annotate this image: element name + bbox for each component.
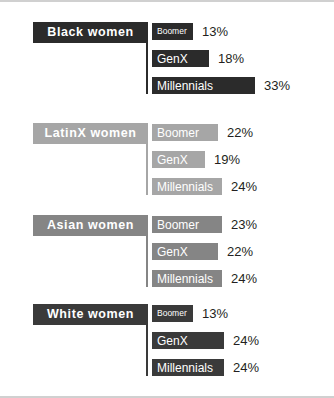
bar-row: Millennials 24% [152,359,259,376]
generation-share-chart: Black women Boomer 13% GenX 18% Millenni… [0,0,334,398]
group-label: White women [47,308,134,321]
group-label-box: Black women [33,22,148,43]
bar-generation-label: Boomer [157,27,187,36]
bar-generation-label: Millennials [157,273,213,285]
bar-generation-label: GenX [157,246,188,258]
bar-generation-label: GenX [157,53,188,65]
bar-generation-label: Millennials [157,362,213,374]
group-label-box: LatinX women [33,123,148,144]
bar-generation-label: GenX [157,154,188,166]
bar-value-label: 24% [233,334,259,347]
bar-value-label: 18% [218,52,244,65]
bar-millennials: Millennials [152,359,224,376]
bar-value-label: 22% [227,126,253,139]
bar-row: Millennials 24% [152,178,257,195]
bar-row: GenX 18% [152,50,244,67]
group-label: Black women [47,26,134,39]
bar-value-label: 22% [227,245,253,258]
bar-value-label: 13% [202,307,228,320]
bar-value-label: 24% [231,272,257,285]
bar-generation-label: Boomer [157,219,199,231]
bar-generation-label: Millennials [157,80,213,92]
bar-row: GenX 19% [152,151,240,168]
group-label: Asian women [47,219,134,232]
bar-boomer: Boomer [152,305,193,322]
bar-boomer: Boomer [152,23,193,40]
bar-boomer: Boomer [152,216,222,233]
bar-value-label: 23% [231,218,257,231]
group-label-box: White women [33,304,148,325]
bar-millennials: Millennials [152,178,222,195]
bar-row: Millennials 24% [152,270,257,287]
bar-value-label: 19% [214,153,240,166]
group-label: LatinX women [45,127,137,140]
group-label-box: Asian women [33,215,148,236]
bar-genx: GenX [152,50,209,67]
bar-generation-label: Millennials [157,181,213,193]
bar-millennials: Millennials [152,270,222,287]
bar-row: Millennials 33% [152,77,290,94]
bar-genx: GenX [152,243,218,260]
bar-boomer: Boomer [152,124,218,141]
bar-row: Boomer 13% [152,23,228,40]
bar-row: GenX 22% [152,243,253,260]
bar-millennials: Millennials [152,77,255,94]
bar-generation-label: Boomer [157,127,199,139]
bar-value-label: 24% [233,361,259,374]
bar-generation-label: Boomer [157,309,187,318]
bar-value-label: 24% [231,180,257,193]
bar-row: Boomer 22% [152,124,253,141]
bar-value-label: 13% [202,25,228,38]
bar-row: GenX 24% [152,332,259,349]
bar-value-label: 33% [264,79,290,92]
bar-generation-label: GenX [157,335,188,347]
bar-genx: GenX [152,332,224,349]
bar-row: Boomer 23% [152,216,257,233]
bar-genx: GenX [152,151,205,168]
bar-row: Boomer 13% [152,305,228,322]
